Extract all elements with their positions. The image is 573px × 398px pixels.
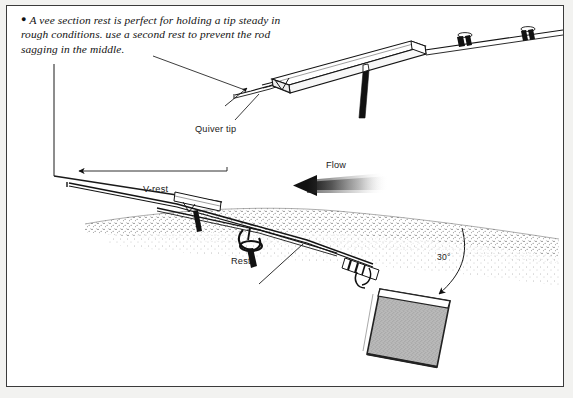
quiver-tip-leader — [235, 94, 259, 120]
caption-bullet: ● — [21, 14, 27, 24]
caption-text: ●A vee section rest is perfect for holdi… — [21, 12, 281, 56]
label-rest: Rest — [231, 256, 251, 266]
water-surface — [85, 208, 559, 286]
illustration-frame: ●A vee section rest is perfect for holdi… — [6, 5, 564, 387]
line-guide-near — [457, 33, 472, 47]
line-guide-far — [521, 27, 535, 41]
vee-rest-inset — [234, 27, 563, 118]
caption-leader-line — [153, 56, 247, 106]
label-quiver-tip: Quiver tip — [195, 124, 236, 134]
keep-net-bag — [363, 289, 450, 367]
diagram-artwork — [7, 6, 564, 387]
label-v-rest: V-rest — [143, 184, 168, 194]
rod-upper-section — [425, 30, 563, 55]
label-flow: Flow — [326, 160, 346, 170]
flow-arrow — [293, 173, 389, 196]
caption-body: A vee section rest is perfect for holdin… — [21, 14, 280, 55]
illustration-page: ●A vee section rest is perfect for holdi… — [0, 0, 573, 398]
label-angle-30-degrees: 30° — [437, 252, 451, 262]
